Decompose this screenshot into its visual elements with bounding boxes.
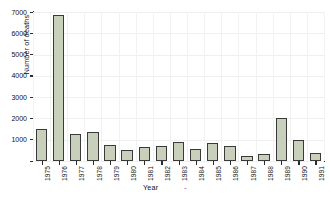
x-tick-label-1987: 1987 [250, 166, 257, 181]
gridline-vertical [273, 12, 274, 161]
y-tick: 4000 [0, 71, 33, 80]
y-tick: 5000 [0, 50, 33, 59]
gridline-horizontal [33, 97, 324, 98]
y-tick [0, 157, 33, 166]
bar-1981 [139, 147, 150, 161]
bar-1991 [310, 153, 321, 162]
y-tick-mark [30, 12, 34, 13]
x-axis-extra-mark: - [184, 183, 187, 192]
bar-1979 [104, 145, 115, 161]
x-tick-mark [161, 161, 162, 165]
y-tick-label: 2000 [11, 114, 27, 123]
x-tick-mark [315, 161, 316, 165]
y-tick: 2000 [0, 114, 33, 123]
x-tick-label-1977: 1977 [78, 166, 85, 181]
gridline-vertical [50, 12, 51, 161]
x-tick-mark [264, 161, 265, 165]
x-tick-mark [59, 161, 60, 165]
gridline-horizontal [33, 76, 324, 77]
gridline-horizontal [33, 12, 324, 13]
x-tick-label-1975: 1975 [44, 166, 51, 181]
y-tick: 1000 [0, 135, 33, 144]
y-tick-mark [30, 139, 34, 140]
x-tick-mark [281, 161, 282, 165]
gridline-vertical [101, 12, 102, 161]
bar-1986 [224, 146, 235, 161]
bar-chart-figure: Number of deaths 10002000300040005000600… [0, 0, 330, 198]
gridline-vertical [307, 12, 308, 161]
bar-1977 [70, 134, 81, 161]
y-tick-label: 7000 [11, 8, 27, 17]
x-tick-label-1983: 1983 [181, 166, 188, 181]
bar-1988 [258, 154, 269, 161]
gridline-vertical [221, 12, 222, 161]
bar-1975 [36, 129, 47, 161]
gridline-vertical [84, 12, 85, 161]
x-tick-mark [42, 161, 43, 165]
gridline-vertical [136, 12, 137, 161]
gridline-vertical [67, 12, 68, 161]
y-tick-label: 4000 [11, 71, 27, 80]
bar-1982 [156, 146, 167, 161]
x-tick-mark [110, 161, 111, 165]
x-tick-label-1990: 1990 [301, 166, 308, 181]
gridline-vertical [119, 12, 120, 161]
y-tick: 7000 [0, 8, 33, 17]
x-tick-mark [144, 161, 145, 165]
gridline-horizontal [33, 33, 324, 34]
x-axis-title-text: Year [143, 183, 158, 192]
x-tick-label-1984: 1984 [198, 166, 205, 181]
x-tick-label-1982: 1982 [164, 166, 171, 181]
gridline-vertical [33, 12, 34, 161]
y-tick-label: 5000 [11, 50, 27, 59]
y-tick-label: 6000 [11, 29, 27, 38]
x-tick-label-1986: 1986 [232, 166, 239, 181]
y-tick-mark [30, 118, 34, 119]
y-tick-mark [30, 75, 34, 76]
x-tick-mark [213, 161, 214, 165]
bar-1983 [173, 142, 184, 161]
x-tick-label-1991: 1991 [318, 166, 325, 181]
y-tick: 6000 [0, 29, 33, 38]
gridline-vertical [187, 12, 188, 161]
y-tick-label: 3000 [11, 93, 27, 102]
y-tick-mark [30, 54, 34, 55]
x-tick-mark [196, 161, 197, 165]
x-tick-mark [76, 161, 77, 165]
gridline-vertical [153, 12, 154, 161]
x-tick-label-1981: 1981 [147, 166, 154, 181]
bar-1985 [207, 143, 218, 161]
x-tick-mark [127, 161, 128, 165]
gridline-vertical [204, 12, 205, 161]
x-tick-label-1979: 1979 [113, 166, 120, 181]
plot-area [33, 12, 324, 161]
x-tick-mark [247, 161, 248, 165]
x-tick-label-1988: 1988 [267, 166, 274, 181]
bar-1978 [87, 132, 98, 161]
y-tick-mark [30, 161, 34, 162]
x-tick-mark [93, 161, 94, 165]
bar-1980 [121, 150, 132, 161]
bar-1976 [53, 15, 64, 161]
x-tick-mark [179, 161, 180, 165]
y-tick: 3000 [0, 93, 33, 102]
x-tick-mark [230, 161, 231, 165]
y-tick-mark [30, 97, 34, 98]
gridline-vertical [324, 12, 325, 161]
gridline-vertical [170, 12, 171, 161]
y-tick-mark [30, 33, 34, 34]
x-tick-label-1989: 1989 [284, 166, 291, 181]
x-tick-label-1980: 1980 [130, 166, 137, 181]
gridline-vertical [290, 12, 291, 161]
bar-1990 [293, 140, 304, 161]
gridline-vertical [256, 12, 257, 161]
x-tick-label-1985: 1985 [215, 166, 222, 181]
bar-1989 [276, 118, 287, 161]
y-tick-label: 1000 [11, 135, 27, 144]
x-tick-label-1978: 1978 [96, 166, 103, 181]
gridline-vertical [238, 12, 239, 161]
x-axis-title: Year- [0, 183, 330, 192]
bar-1984 [190, 149, 201, 161]
x-tick-mark [298, 161, 299, 165]
x-tick-label-1976: 1976 [61, 166, 68, 181]
